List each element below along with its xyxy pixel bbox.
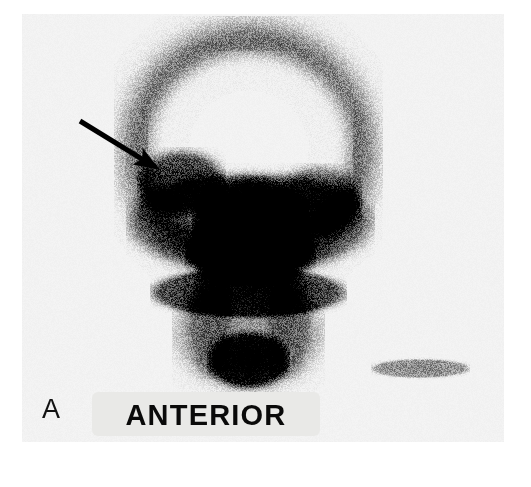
orientation-label: ANTERIOR [92,398,320,432]
figure-panel: ANTERIOR A [0,0,531,487]
scintigraphy-scan-image [22,14,504,442]
scan-pixel-canvas [22,14,504,442]
panel-letter: A [42,394,60,424]
